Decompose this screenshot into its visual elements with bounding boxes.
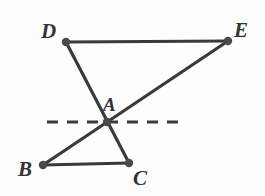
segment-BC bbox=[43, 163, 129, 165]
vertex-dot-E bbox=[224, 37, 232, 45]
vertex-label-D: D bbox=[41, 21, 56, 42]
segment-DE bbox=[66, 41, 228, 42]
vertex-dot-B bbox=[39, 161, 47, 169]
vertex-label-E: E bbox=[234, 20, 248, 41]
vertex-label-A: A bbox=[103, 95, 116, 114]
vertex-label-B: B bbox=[18, 159, 32, 180]
vertex-dot-C bbox=[125, 159, 133, 167]
vertex-dot-A bbox=[103, 118, 111, 126]
geometry-figure: D E A B C bbox=[0, 0, 265, 196]
segment-BE bbox=[43, 41, 228, 165]
vertex-label-C: C bbox=[133, 168, 147, 189]
vertex-dot-D bbox=[62, 38, 70, 46]
